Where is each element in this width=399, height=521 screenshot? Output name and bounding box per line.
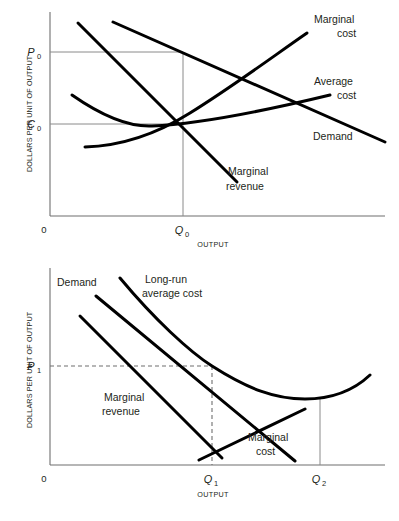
tick-p0-letter: P [27, 46, 35, 58]
curve-marginal-revenue [80, 316, 222, 458]
label-marginal-revenue-line1: Marginal [228, 165, 268, 177]
label-marginal-revenue-line2: revenue [102, 405, 140, 417]
tick-q0-subscript: 0 [185, 230, 189, 239]
tick-p1-letter: P [27, 360, 35, 372]
label-marginal-cost-line1: Marginal [314, 13, 354, 25]
label-marginal-revenue-line1: Marginal [104, 391, 144, 403]
tick-q1-letter: Q [204, 473, 213, 485]
tick-q0-letter: Q [175, 224, 184, 236]
tick-p0-subscript: 0 [37, 52, 41, 61]
label-lrac-line1: Long-run [145, 273, 187, 285]
x-axis-label: OUTPUT [197, 490, 229, 499]
short-run-svg: DOLLARS PER UNIT OF OUTPUT P 0 C 0 0 Q 0… [0, 0, 399, 258]
label-average-cost-line1: Average [314, 75, 353, 87]
chart-long-run-equilibrium: DOLLARS PER UNIT OF OUTPUT P 1 0 Q 1 Q 2… [0, 258, 399, 521]
y-axis-label: DOLLARS PER UNIT OF OUTPUT [25, 55, 34, 172]
curve-marginal-revenue [78, 23, 237, 182]
label-demand: Demand [57, 276, 97, 288]
label-marginal-cost-line1: Marginal [248, 431, 288, 443]
label-demand: Demand [313, 130, 353, 142]
tick-c0-subscript: 0 [37, 124, 41, 133]
label-average-cost-line2: cost [337, 89, 356, 101]
origin-label: 0 [41, 473, 46, 484]
x-axis-label: OUTPUT [197, 240, 229, 249]
label-marginal-cost-line2: cost [337, 27, 356, 39]
label-lrac-line2: average cost [142, 287, 202, 299]
tick-q1-subscript: 1 [214, 479, 218, 488]
label-marginal-revenue-line2: revenue [226, 180, 264, 192]
chart-short-run-equilibrium: DOLLARS PER UNIT OF OUTPUT P 0 C 0 0 Q 0… [0, 0, 399, 258]
tick-p1-subscript: 1 [37, 366, 41, 375]
tick-c0-letter: C [27, 118, 35, 130]
curve-marginal-cost [85, 33, 307, 147]
tick-q2-subscript: 2 [322, 479, 326, 488]
origin-label: 0 [41, 224, 46, 235]
long-run-svg: DOLLARS PER UNIT OF OUTPUT P 1 0 Q 1 Q 2… [0, 258, 399, 521]
label-marginal-cost-line2: cost [256, 445, 275, 457]
tick-q2-letter: Q [312, 473, 321, 485]
